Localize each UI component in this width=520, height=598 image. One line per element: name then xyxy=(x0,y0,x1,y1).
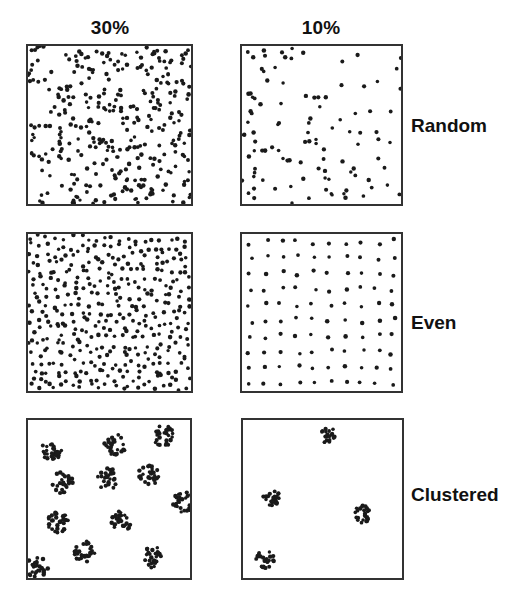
panel-even-10 xyxy=(240,232,403,393)
row-label-even: Even xyxy=(411,312,456,334)
column-header-30-percent: 30% xyxy=(50,17,170,39)
panel-random-10 xyxy=(240,44,403,206)
panel-random-30 xyxy=(26,44,193,206)
column-header-10-percent: 10% xyxy=(261,17,381,39)
row-label-random: Random xyxy=(411,115,487,137)
row-label-clustered: Clustered xyxy=(411,484,499,506)
panel-clustered-10 xyxy=(241,418,404,580)
panel-clustered-30 xyxy=(26,418,192,580)
panel-even-30 xyxy=(26,232,193,393)
